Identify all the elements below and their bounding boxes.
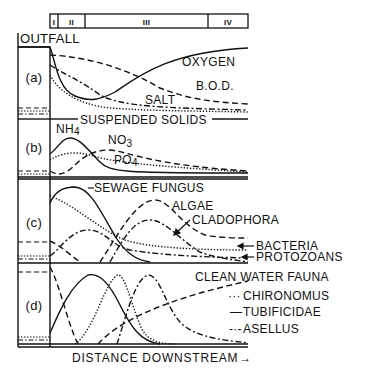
label-chironomus-key: ··· — [228, 289, 241, 303]
arrow-protozoans-head — [242, 255, 247, 260]
curve-po4 — [50, 153, 248, 172]
label-po4-sub: 4 — [132, 157, 138, 168]
label-nh4: NH4 — [56, 122, 80, 137]
outfall-label: OUTFALL — [20, 31, 80, 46]
curve-tubificidae — [50, 275, 160, 344]
label-nh4-text: NH — [56, 122, 74, 136]
panel-b-curves — [50, 138, 248, 174]
arrow-protozoans — [242, 255, 254, 260]
label-nh4-sub: 4 — [74, 126, 80, 137]
label-no3-sub: 3 — [127, 138, 133, 149]
label-asellus-key: -·- — [229, 322, 242, 336]
label-salt: SALT — [145, 93, 176, 107]
label-clean-water-fauna: CLEAN WATER FAUNA — [195, 270, 329, 284]
label-tubificidae-key: — — [230, 305, 242, 319]
label-oxygen: OXYGEN — [182, 55, 235, 69]
x-axis-label-text: DISTANCE DOWNSTREAM — [72, 351, 238, 365]
label-cladophora: CLADOPHORA — [192, 213, 279, 227]
arrow-bacteria-head — [238, 244, 243, 249]
label-asellus: ASELLUS — [243, 322, 299, 336]
river-pollution-diagram: I II III IV OUTFALL (a) (b) (c) (d) — [0, 0, 365, 379]
label-bod: B.O.D. — [196, 79, 234, 93]
label-po4: PO4 — [114, 153, 138, 168]
zone-label-iv: IV — [224, 18, 233, 27]
curve-nh4 — [50, 138, 248, 173]
zone-label-i: I — [53, 18, 56, 27]
arrow-cladophora — [174, 220, 190, 235]
panel-label-d: (d) — [26, 298, 43, 313]
x-axis-label: DISTANCE DOWNSTREAM→ — [72, 351, 252, 365]
curve-clean-water-fauna-decline — [50, 267, 78, 344]
panel-label-b: (b) — [26, 140, 43, 155]
label-suspended-solids: SUSPENDED SOLIDS — [80, 113, 207, 127]
zone-label-ii: II — [69, 18, 74, 27]
label-tubificidae: TUBIFICIDAE — [243, 305, 321, 319]
panel-separators — [18, 119, 248, 347]
label-no3-text: NO — [108, 133, 127, 147]
label-sewage-fungus: SEWAGE FUNGUS — [94, 181, 204, 195]
zone-label-iii: III — [143, 18, 151, 27]
panel-label-c: (c) — [26, 215, 42, 230]
label-protozoans: PROTOZOANS — [256, 250, 343, 264]
x-axis-arrow: → — [239, 351, 252, 365]
label-no3: NO3 — [108, 133, 133, 149]
arrow-bacteria — [238, 244, 254, 249]
label-chironomus: CHIRONOMUS — [243, 289, 329, 303]
panel-label-a: (a) — [26, 70, 43, 85]
label-po4-text: PO — [114, 153, 132, 167]
label-algae: ALGAE — [172, 199, 214, 213]
curve-protozoans — [50, 230, 248, 258]
